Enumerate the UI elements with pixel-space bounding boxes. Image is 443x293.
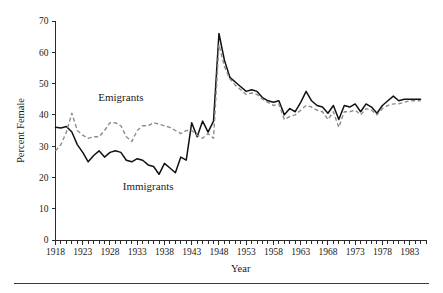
x-axis-tick-labels: 1918192319281933193819431948195319581963…	[46, 247, 419, 257]
annotation-emigrants: Emigrants	[98, 91, 143, 103]
series-annotations: EmigrantsImmigrants	[98, 91, 173, 192]
x-tick-label: 1978	[373, 247, 392, 257]
y-tick-label: 60	[39, 48, 49, 58]
y-tick-label: 0	[44, 235, 49, 245]
x-tick-label: 1933	[128, 247, 147, 257]
x-axis-ticks	[56, 240, 427, 245]
axis-lines	[56, 21, 427, 240]
x-tick-label: 1928	[100, 247, 119, 257]
x-tick-label: 1918	[46, 247, 65, 257]
x-tick-label: 1943	[182, 247, 201, 257]
y-tick-label: 40	[39, 110, 49, 120]
x-tick-label: 1923	[73, 247, 92, 257]
chart-axes	[56, 21, 427, 240]
x-tick-label: 1958	[264, 247, 283, 257]
chart-series-group	[56, 34, 421, 175]
annotation-immigrants: Immigrants	[123, 180, 174, 192]
chart-figure: 010203040506070 191819231928193319381943…	[0, 0, 443, 293]
x-tick-label: 1938	[155, 247, 174, 257]
x-axis-title: Year	[231, 263, 251, 274]
y-tick-label: 70	[39, 16, 49, 26]
x-tick-label: 1973	[346, 247, 365, 257]
y-axis-ticks	[52, 21, 56, 240]
y-tick-label: 20	[39, 173, 49, 183]
y-tick-label: 50	[39, 79, 49, 89]
y-axis-title: Percent Female	[15, 98, 26, 163]
x-tick-label: 1983	[400, 247, 419, 257]
series-line-immigrants	[56, 34, 421, 175]
x-tick-label: 1948	[209, 247, 228, 257]
x-tick-label: 1963	[291, 247, 310, 257]
x-tick-label: 1968	[318, 247, 337, 257]
y-tick-label: 10	[39, 204, 49, 214]
percent-female-line-chart: 010203040506070 191819231928193319381943…	[0, 0, 443, 293]
x-tick-label: 1953	[237, 247, 256, 257]
y-axis-tick-labels: 010203040506070	[39, 16, 49, 245]
y-tick-label: 30	[39, 142, 49, 152]
